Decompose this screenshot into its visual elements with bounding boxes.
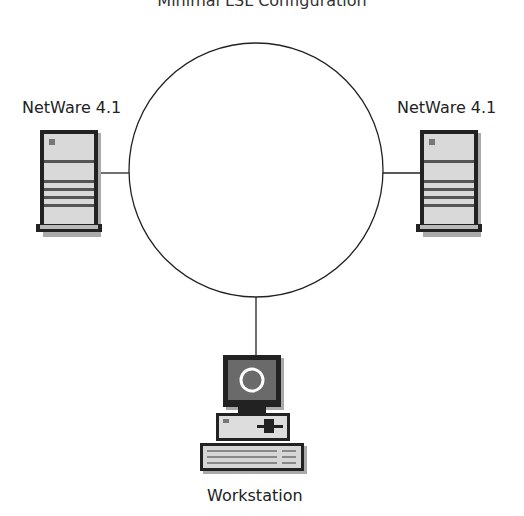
server-icon [416, 130, 482, 237]
right-server-label: NetWare 4.1 [397, 98, 496, 117]
ring-network [129, 43, 383, 297]
server-icon [36, 130, 102, 237]
left-server-label: NetWare 4.1 [22, 98, 121, 117]
network-diagram [0, 0, 524, 516]
workstation-label: Workstation [207, 486, 303, 505]
workstation-icon [200, 355, 307, 474]
